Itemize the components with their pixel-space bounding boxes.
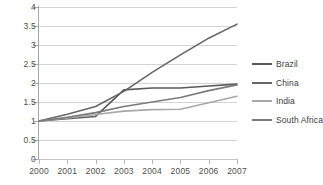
series-line-china xyxy=(39,24,237,121)
y-axis-tick-label: 3 xyxy=(31,40,36,50)
series-lines xyxy=(39,7,237,159)
legend-label: South Africa xyxy=(276,115,323,125)
legend-label: India xyxy=(276,96,295,106)
y-axis-tick-label: 1 xyxy=(31,116,36,126)
x-axis-tick-label: 2003 xyxy=(110,166,138,176)
plot-area xyxy=(39,7,237,159)
chart-legend: BrazilChinaIndiaSouth Africa xyxy=(252,55,321,129)
y-axis-tick-label: 2.5 xyxy=(24,59,36,69)
x-axis-tick-label: 2004 xyxy=(138,166,166,176)
legend-item-south-africa[interactable]: South Africa xyxy=(252,111,321,130)
y-axis-tick-label: 3.5 xyxy=(24,21,36,31)
gridline xyxy=(39,159,237,160)
y-axis-tick-label: 1.5 xyxy=(24,97,36,107)
legend-item-brazil[interactable]: Brazil xyxy=(252,55,321,74)
y-axis-tick-label: 4 xyxy=(31,2,36,12)
x-axis-tick-label: 2001 xyxy=(53,166,81,176)
legend-swatch xyxy=(252,82,272,84)
legend-swatch xyxy=(252,119,272,121)
x-axis-tick-label: 2006 xyxy=(195,166,223,176)
x-axis-tick-label: 2007 xyxy=(223,166,251,176)
x-axis-tick-label: 2005 xyxy=(166,166,194,176)
legend-label: China xyxy=(276,78,299,88)
y-axis-tick-label: 0 xyxy=(31,154,36,164)
y-axis-tick-label: 2 xyxy=(31,78,36,88)
y-axis-tick-label: 0.5 xyxy=(24,135,36,145)
legend-item-china[interactable]: China xyxy=(252,74,321,93)
legend-item-india[interactable]: India xyxy=(252,92,321,111)
x-axis-tick-label: 2002 xyxy=(82,166,110,176)
legend-swatch xyxy=(252,63,272,65)
x-axis-tick-label: 2000 xyxy=(25,166,53,176)
legend-swatch xyxy=(252,100,272,102)
x-axis-tick xyxy=(237,159,238,164)
legend-label: Brazil xyxy=(276,59,298,69)
